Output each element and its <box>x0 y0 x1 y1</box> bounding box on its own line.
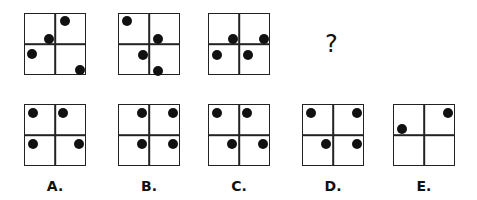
dot-icon <box>28 108 38 118</box>
dot-icon <box>168 139 178 149</box>
grid-horizontal-divider <box>25 134 85 136</box>
option-b-label[interactable]: B. <box>118 178 180 194</box>
grid-horizontal-divider <box>209 134 269 136</box>
grid-horizontal-divider <box>303 134 363 136</box>
dot-icon <box>28 139 38 149</box>
dot-icon <box>137 108 147 118</box>
sequence-figure-3 <box>208 13 270 75</box>
grid-horizontal-divider <box>119 43 179 45</box>
grid-horizontal-divider <box>119 134 179 136</box>
dot-icon <box>75 65 85 75</box>
option-b-figure[interactable] <box>118 104 180 166</box>
missing-figure-question-mark: ? <box>325 30 338 58</box>
dot-icon <box>228 34 238 44</box>
option-d-figure[interactable] <box>302 104 364 166</box>
dot-icon <box>212 108 222 118</box>
sequence-figure-1 <box>24 13 86 75</box>
option-c-figure[interactable] <box>208 104 270 166</box>
dot-icon <box>60 16 70 26</box>
dot-icon <box>137 139 147 149</box>
dot-icon <box>168 108 178 118</box>
dot-icon <box>306 108 316 118</box>
grid-horizontal-divider <box>394 134 454 136</box>
option-d-label[interactable]: D. <box>302 178 364 194</box>
option-a-label[interactable]: A. <box>24 178 86 194</box>
dot-icon <box>74 139 84 149</box>
dot-icon <box>227 139 237 149</box>
dot-icon <box>321 139 331 149</box>
dot-icon <box>153 66 163 76</box>
dot-icon <box>259 34 269 44</box>
option-e-label[interactable]: E. <box>393 178 455 194</box>
dot-icon <box>212 50 222 60</box>
dot-icon <box>44 34 54 44</box>
option-c-label[interactable]: C. <box>208 178 270 194</box>
dot-icon <box>27 49 37 59</box>
grid-horizontal-divider <box>209 43 269 45</box>
sequence-figure-2 <box>118 13 180 75</box>
dot-icon <box>243 50 253 60</box>
grid-horizontal-divider <box>25 43 85 45</box>
dot-icon <box>258 139 268 149</box>
dot-icon <box>352 139 362 149</box>
dot-icon <box>397 124 407 134</box>
dot-icon <box>138 50 148 60</box>
option-e-figure[interactable] <box>393 104 455 166</box>
dot-icon <box>58 108 68 118</box>
dot-icon <box>352 108 362 118</box>
dot-icon <box>443 108 453 118</box>
dot-icon <box>122 16 132 26</box>
option-a-figure[interactable] <box>24 104 86 166</box>
dot-icon <box>153 34 163 44</box>
dot-icon <box>242 108 252 118</box>
